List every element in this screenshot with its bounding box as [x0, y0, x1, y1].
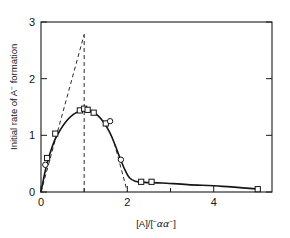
data-point-square [91, 110, 96, 115]
x-tick-label-0: 0 [38, 196, 44, 208]
data-point-circle [43, 162, 48, 167]
x-axis-title-open: [A]/[ [136, 218, 153, 229]
data-point-circle [118, 157, 123, 162]
data-point-square [139, 179, 144, 184]
y-axis-title: Initial rate of A− formation [8, 44, 19, 150]
data-point-square [44, 155, 49, 160]
svg-text:[A]/[−αα−]: [A]/[−αα−] [136, 218, 176, 229]
chart-figure: 024 0123 Initial rate of A− formation [A… [0, 0, 290, 238]
x-tick-label-4: 4 [211, 196, 217, 208]
dashed-guide-lines [41, 34, 127, 192]
data-point-square [53, 131, 58, 136]
axes-frame [41, 22, 272, 192]
data-point-square [85, 107, 90, 112]
y-tick-label-1: 1 [29, 129, 35, 141]
x-axis-title-close: ] [173, 218, 176, 229]
y-axis-tick-labels: 0123 [29, 16, 35, 198]
y-tick-label-3: 3 [29, 16, 35, 28]
svg-text:Initial rate of A− formation: Initial rate of A− formation [8, 44, 19, 150]
data-point-square [149, 179, 154, 184]
data-point-square [255, 187, 260, 192]
x-axis-tick-labels: 024 [38, 196, 217, 208]
y-axis-title-trail: formation [8, 44, 19, 86]
x-axis-title-greek: αα [157, 218, 170, 229]
x-axis-title: [A]/[−αα−] [136, 218, 176, 229]
y-axis-title-lead: Initial rate of A [8, 89, 19, 150]
y-axis-ticks [41, 22, 272, 192]
y-tick-label-2: 2 [29, 73, 35, 85]
y-tick-label-0: 0 [29, 186, 35, 198]
plot-frame [41, 22, 272, 192]
data-markers [43, 106, 261, 192]
scatter-plot-svg: 024 0123 Initial rate of A− formation [A… [0, 0, 290, 238]
data-point-circle [107, 118, 112, 123]
x-tick-label-2: 2 [124, 196, 130, 208]
